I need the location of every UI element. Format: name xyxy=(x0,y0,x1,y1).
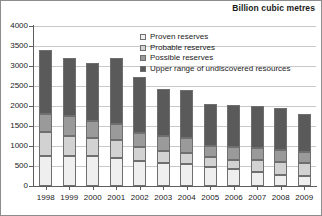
x-axis-labels: 1998199920002001200220032004200520062007… xyxy=(1,191,322,211)
x-tick-mark xyxy=(93,186,94,190)
bar-segment xyxy=(298,152,311,162)
x-tick-mark xyxy=(234,186,235,190)
y-tick-label: 1500 xyxy=(1,122,28,130)
bar-segment xyxy=(227,147,240,159)
y-tick-label: 500 xyxy=(1,162,28,170)
bar-segment xyxy=(251,160,264,172)
x-tick-label: 1998 xyxy=(33,193,59,202)
bar-segment xyxy=(39,156,52,186)
chart-legend: Proven reservesProbable reservesPossible… xyxy=(140,32,291,74)
x-tick-mark xyxy=(116,186,117,190)
x-tick-label: 2000 xyxy=(80,193,106,202)
legend-swatch-icon xyxy=(140,55,146,61)
bar-segment xyxy=(298,114,311,152)
bar-segment xyxy=(251,106,264,148)
x-axis-line xyxy=(33,186,317,187)
bar-segment xyxy=(298,176,311,186)
y-tick-label: 1000 xyxy=(1,142,28,150)
bar-segment xyxy=(298,163,311,176)
bar-segment xyxy=(274,108,287,150)
bar-segment xyxy=(204,157,217,167)
bar-1998[interactable] xyxy=(39,26,52,186)
bar-segment xyxy=(157,136,170,151)
bar-segment xyxy=(63,136,76,156)
bar-segment xyxy=(204,104,217,146)
bar-segment xyxy=(180,138,193,153)
legend-label: Possible reserves xyxy=(150,53,213,64)
bar-segment xyxy=(157,151,170,163)
bar-segment xyxy=(204,167,217,186)
bar-segment xyxy=(133,147,146,161)
y-tick-label: 0 xyxy=(1,182,28,190)
x-tick-mark xyxy=(140,186,141,190)
y-tick-label: 4000 xyxy=(1,22,28,30)
bar-2000[interactable] xyxy=(86,26,99,186)
x-tick-label: 2003 xyxy=(150,193,176,202)
bar-segment xyxy=(63,116,76,136)
x-tick-mark xyxy=(46,186,47,190)
x-tick-mark xyxy=(163,186,164,190)
y-tick-label: 2000 xyxy=(1,102,28,110)
bar-segment xyxy=(86,156,99,186)
legend-swatch-icon xyxy=(140,45,146,51)
bar-segment xyxy=(86,138,99,156)
bar-segment xyxy=(39,50,52,114)
bar-segment xyxy=(274,162,287,175)
x-tick-mark xyxy=(210,186,211,190)
bar-2001[interactable] xyxy=(110,26,123,186)
x-tick-mark xyxy=(281,186,282,190)
bar-segment xyxy=(157,89,170,136)
bar-segment xyxy=(110,58,123,124)
bar-segment xyxy=(133,133,146,147)
bar-segment xyxy=(86,63,99,121)
bar-segment xyxy=(180,90,193,138)
bar-segment xyxy=(227,160,240,170)
x-tick-label: 2004 xyxy=(174,193,200,202)
legend-item[interactable]: Possible reserves xyxy=(140,53,291,64)
legend-item[interactable]: Probable reserves xyxy=(140,43,291,54)
chart-container: Billion cubic metres 0500100015002000250… xyxy=(0,0,322,216)
bar-segment xyxy=(86,121,99,138)
legend-item[interactable]: Upper range of undiscovered resources xyxy=(140,64,291,75)
bar-segment xyxy=(39,132,52,156)
x-tick-mark xyxy=(69,186,70,190)
x-tick-label: 2006 xyxy=(221,193,247,202)
bar-segment xyxy=(110,158,123,186)
bar-1999[interactable] xyxy=(63,26,76,186)
bar-segment xyxy=(251,172,264,186)
bar-segment xyxy=(180,164,193,186)
x-tick-label: 2009 xyxy=(291,193,317,202)
x-tick-label: 2002 xyxy=(127,193,153,202)
x-tick-label: 1999 xyxy=(56,193,82,202)
legend-label: Upper range of undiscovered resources xyxy=(150,64,291,75)
bar-segment xyxy=(110,124,123,141)
bar-segment xyxy=(63,58,76,116)
bar-segment xyxy=(227,169,240,186)
legend-label: Proven reserves xyxy=(150,32,208,43)
bar-segment xyxy=(251,148,264,160)
bar-segment xyxy=(204,146,217,157)
bar-segment xyxy=(39,114,52,132)
x-tick-label: 2007 xyxy=(244,193,270,202)
legend-label: Probable reserves xyxy=(150,43,215,54)
bar-segment xyxy=(180,153,193,165)
bar-segment xyxy=(133,161,146,186)
x-tick-mark xyxy=(257,186,258,190)
x-tick-label: 2005 xyxy=(197,193,223,202)
legend-item[interactable]: Proven reserves xyxy=(140,32,291,43)
bar-segment xyxy=(274,175,287,186)
y-tick-label: 3500 xyxy=(1,42,28,50)
x-tick-label: 2008 xyxy=(268,193,294,202)
bar-segment xyxy=(133,77,146,133)
legend-swatch-icon xyxy=(140,66,146,72)
x-tick-mark xyxy=(187,186,188,190)
bar-segment xyxy=(63,156,76,186)
bar-2009[interactable] xyxy=(298,26,311,186)
y-tick-label: 3000 xyxy=(1,62,28,70)
legend-swatch-icon xyxy=(140,34,146,40)
bar-segment xyxy=(227,105,240,147)
y-tick-label: 2500 xyxy=(1,82,28,90)
x-tick-mark xyxy=(304,186,305,190)
bar-segment xyxy=(274,150,287,162)
bar-segment xyxy=(110,140,123,158)
